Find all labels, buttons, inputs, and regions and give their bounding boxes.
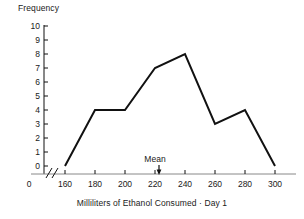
y-tick-marks xyxy=(44,26,48,166)
frequency-polygon-chart: Frequency 10 9 8 7 6 5 4 3 2 1 0 0 160 1… xyxy=(0,0,304,219)
frequency-polyline xyxy=(65,54,275,166)
plot-area xyxy=(0,0,304,219)
x-tick-marks xyxy=(65,170,275,174)
x-axis-title: Milliliters of Ethanol Consumed · Day 1 xyxy=(0,198,304,208)
axis-break-marker xyxy=(46,168,58,178)
